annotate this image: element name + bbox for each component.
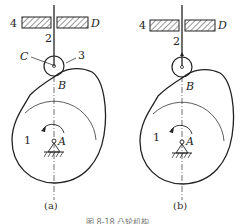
label-contact-b: B <box>185 80 194 93</box>
rotation-arrowhead-icon <box>169 127 174 133</box>
label-follower-2: 2 <box>173 35 180 48</box>
guide-block-right <box>185 20 215 31</box>
caption-b: (b) <box>173 200 187 211</box>
ground-hatch <box>44 152 63 157</box>
figure-caption: 图 8-18 凸轮机构 <box>86 217 149 224</box>
label-cam-1: 1 <box>153 131 160 144</box>
cam-mechanism-diagram: 4 D 2 C 3 B 1 A (a) 4 D 2 B <box>0 0 241 224</box>
label-frame-4: 4 <box>139 19 146 32</box>
rotation-arc <box>43 124 64 133</box>
leader-c <box>31 57 53 65</box>
ground-hatch <box>172 153 191 158</box>
label-guide-d: D <box>90 17 100 30</box>
guide-block-left <box>22 17 51 28</box>
caption-a: (a) <box>44 200 58 211</box>
rotation-arrowhead-icon <box>41 126 46 132</box>
label-pivot-a: A <box>185 135 194 148</box>
leader-3 <box>66 58 76 63</box>
panel-b: 4 D 2 B 1 A (b) <box>139 5 234 211</box>
panel-a: 4 D 2 C 3 B 1 A (a) <box>10 5 106 211</box>
label-follower-2: 2 <box>45 32 52 45</box>
label-contact-b: B <box>57 79 66 92</box>
follower-tip <box>180 52 184 56</box>
label-roller-center-c: C <box>20 50 29 63</box>
label-roller-3: 3 <box>78 49 85 62</box>
guide-block-left <box>150 20 179 31</box>
label-frame-4: 4 <box>10 17 17 30</box>
rotation-arc <box>171 125 192 134</box>
guide-block-right <box>57 17 88 28</box>
label-guide-d: D <box>217 19 227 32</box>
label-pivot-a: A <box>57 135 66 148</box>
label-cam-1: 1 <box>24 134 31 147</box>
